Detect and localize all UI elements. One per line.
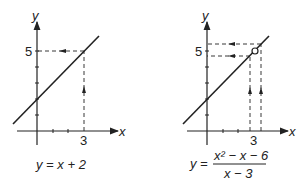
- ticks: [35, 51, 68, 133]
- left-graph: y x 5 3 y = x + 2: [13, 8, 126, 172]
- arrow-left-icon: [59, 49, 66, 53]
- arrow-up-icon: [82, 86, 86, 93]
- y-axis-label: y: [201, 8, 210, 23]
- arrow-up-icon: [248, 87, 252, 94]
- ticks: [205, 51, 238, 133]
- hole-point: [252, 48, 258, 54]
- equation-numerator: x² − x − 6: [213, 148, 269, 163]
- right-graph: y x 5 3 y = x² − x − 6 x − 3: [183, 8, 296, 181]
- x-axis-label: x: [288, 124, 296, 139]
- tick-3-label: 3: [80, 133, 87, 148]
- equation-lhs: y =: [189, 156, 208, 171]
- x-axis-label: x: [118, 124, 126, 139]
- equation: y = x + 2: [35, 157, 87, 172]
- tick-5-label: 5: [25, 44, 32, 59]
- equation-denominator: x − 3: [223, 166, 253, 181]
- tick-3-label: 3: [250, 133, 257, 148]
- y-axis-label: y: [31, 8, 40, 23]
- tick-5-label: 5: [195, 44, 202, 59]
- arrow-up-icon: [259, 87, 263, 94]
- arrow-left-icon: [228, 42, 235, 46]
- arrow-left-icon: [228, 54, 235, 58]
- limit-diagram: y x 5 3 y = x + 2 y x 5 3 y = x: [0, 0, 308, 186]
